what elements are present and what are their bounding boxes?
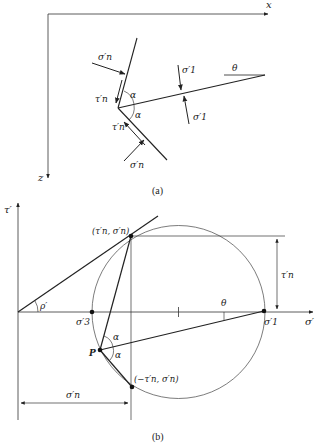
sigma-n-arrow-bottom — [124, 140, 144, 161]
alpha-label-b-bottom: α — [115, 350, 121, 360]
figure-a: x z θ σ′n τ′n τ′n σ′n σ′1 σ′1 α α (a) — [37, 0, 272, 197]
sigma-n-label-top: σ′n — [98, 52, 112, 62]
sigma3-label: σ′3 — [76, 317, 90, 327]
sigma1-arrow-top — [178, 65, 181, 90]
point-lower — [130, 385, 135, 390]
pole-to-sigma1 — [100, 311, 264, 350]
tau-n-label-top: τ′n — [95, 94, 108, 104]
phi-arc — [35, 301, 38, 312]
sigma1-label-bottom: σ′1 — [193, 112, 207, 122]
point-sigma3 — [90, 310, 95, 315]
sigma-n-dim-label: σ′n — [66, 390, 80, 400]
failure-envelope — [18, 216, 158, 312]
tau-n-arrow-top — [116, 80, 122, 103]
sigma1-label-top: σ′1 — [182, 65, 196, 75]
alpha-label-top: α — [130, 90, 136, 100]
point-pole — [98, 348, 103, 353]
sigma1-arrow-bottom — [184, 96, 189, 124]
alpha-arc-b-top — [104, 336, 113, 347]
point-upper-label: (τ′n, σ′n) — [92, 226, 129, 236]
theta-label-b: θ — [221, 298, 227, 308]
lower-plane — [118, 108, 167, 160]
figure-b: τ′ σ′ ρ′ θ (τ′n, σ′n) σ′3 σ′1 P (−τ′n, σ… — [4, 203, 315, 443]
z-axis-label: z — [37, 172, 44, 183]
pole-label: P — [88, 348, 96, 358]
phi-label: ρ′ — [39, 301, 47, 311]
point-lower-label: (−τ′n, σ′n) — [134, 374, 178, 384]
sigma1-plane — [118, 75, 265, 108]
alpha-label-b-top: α — [113, 332, 119, 342]
alpha-arc-b-bottom — [110, 347, 114, 360]
sigma-n-arrow-top — [92, 63, 125, 74]
tau-axis-label: τ′ — [4, 204, 13, 215]
mohr-circle-figure: x z θ σ′n τ′n τ′n σ′n σ′1 σ′1 α α (a) — [0, 0, 323, 447]
tau-n-label-bottom: τ′n — [112, 122, 125, 132]
tau-n-dim-label: τ′n — [281, 270, 294, 280]
sigma-axis-label: σ′ — [305, 316, 315, 327]
x-axis-label: x — [266, 0, 272, 10]
caption-a: (a) — [152, 185, 163, 197]
alpha-label-bottom: α — [135, 110, 141, 120]
sigma-n-label-bottom: σ′n — [130, 160, 144, 170]
theta-label-a: θ — [232, 63, 238, 73]
alpha-arc-bottom — [129, 105, 134, 120]
point-sigma1 — [262, 309, 267, 314]
caption-b: (b) — [152, 431, 164, 443]
point-upper — [129, 234, 134, 239]
sigma1-label: σ′1 — [264, 317, 278, 327]
